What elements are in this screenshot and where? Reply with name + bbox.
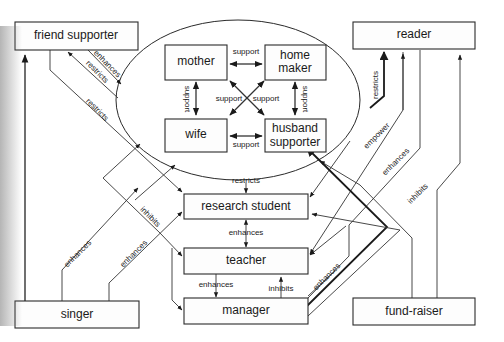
label-mother-homemaker: support (233, 47, 260, 56)
teacher-label: teacher (226, 253, 266, 267)
node-husband-supporter: husband supporter (265, 119, 326, 152)
label-wife-husband: support (233, 140, 260, 149)
node-friend-supporter: friend supporter (15, 22, 138, 50)
label-homemaker-husband: support (301, 86, 310, 113)
label-ellipse-restricts-student: restricts (232, 176, 260, 185)
research-student-label: research student (201, 199, 291, 213)
home-maker-label-2: maker (278, 61, 311, 75)
mother-label: mother (177, 54, 214, 68)
label-singer-enhances-1: enhances (62, 238, 93, 269)
label-teacher-manager: enhances (199, 280, 234, 289)
edge-zig-connector (103, 178, 160, 233)
edge-to-manager (172, 248, 182, 310)
label-diag-left: support (216, 94, 243, 103)
edge-right-to-teacher (310, 226, 346, 255)
node-teacher: teacher (184, 248, 308, 274)
label-friend-restricts-student: restricts (84, 97, 110, 123)
node-singer: singer (15, 301, 139, 328)
node-reader: reader (353, 22, 475, 49)
label-empower: empower (362, 121, 392, 151)
label-singer-inhibits: inhibits (138, 205, 162, 229)
wife-label: wife (184, 127, 207, 141)
husband-supporter-label-2: supporter (270, 135, 321, 149)
husband-supporter-label-1: husband (272, 121, 318, 135)
fund-raiser-label: fund-raiser (385, 304, 442, 318)
node-manager: manager (184, 298, 308, 324)
manager-label: manager (222, 303, 269, 317)
label-diag-right: support (253, 94, 280, 103)
friend-supporter-label: friend supporter (34, 28, 118, 42)
edge-singer-enhances-2 (109, 212, 182, 301)
home-maker-label-1: home (280, 48, 310, 62)
edge-zig-to-teacher (160, 233, 182, 256)
label-student-teacher: enhances (229, 228, 264, 237)
edge-to-ellipse-bottom (135, 165, 175, 200)
label-mother-wife: support (183, 86, 192, 113)
edge-singer-enhances-1 (62, 188, 138, 301)
node-mother: mother (165, 45, 227, 80)
edge-friend-restricts (68, 52, 118, 98)
node-wife: wife (165, 119, 227, 152)
node-home-maker: home maker (265, 45, 326, 80)
label-singer-enhances-2: enhances (118, 238, 149, 269)
singer-label: singer (61, 307, 94, 321)
edge-singer-enhances-zigzag (103, 144, 140, 178)
label-fundraiser-inhibits: inhibits (406, 182, 430, 206)
reader-label: reader (397, 27, 432, 41)
node-research-student: research student (184, 194, 308, 219)
node-fund-raiser: fund-raiser (353, 298, 475, 325)
label-restricts-reader: restricts (371, 71, 380, 99)
role-relationship-diagram: friend supporter reader mother home make… (0, 0, 504, 342)
scan-shadow (0, 26, 22, 326)
label-reader-enhances: enhances (380, 146, 411, 177)
label-manager-teacher: inhibits (269, 284, 294, 293)
edge-fundraiser-inhibits (437, 55, 460, 301)
